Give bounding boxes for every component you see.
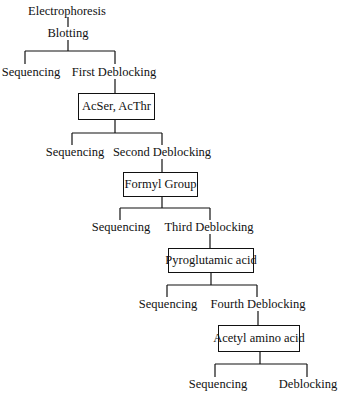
box-acser-acthr: AcSer, AcThr [78,93,155,120]
box-pyroglutamic-acid: Pyroglutamic acid [168,248,254,273]
box-formyl-group: Formyl Group [123,172,198,197]
deblocking-flowchart: Electrophoresis Blotting Sequencing Firs… [0,0,338,395]
node-sequencing-4: Sequencing [139,297,197,311]
node-blotting: Blotting [48,26,89,40]
node-deblocking-final: Deblocking [279,377,337,391]
node-first-deblocking: First Deblocking [72,65,156,79]
node-electrophoresis: Electrophoresis [28,4,106,18]
box-acetyl-amino-acid: Acetyl amino acid [218,325,300,352]
node-second-deblocking: Second Deblocking [113,145,211,159]
node-sequencing-1: Sequencing [2,65,60,79]
node-sequencing-final: Sequencing [189,377,247,391]
node-sequencing-2: Sequencing [46,145,104,159]
node-sequencing-3: Sequencing [92,220,150,234]
node-fourth-deblocking: Fourth Deblocking [211,297,306,311]
node-third-deblocking: Third Deblocking [164,220,253,234]
